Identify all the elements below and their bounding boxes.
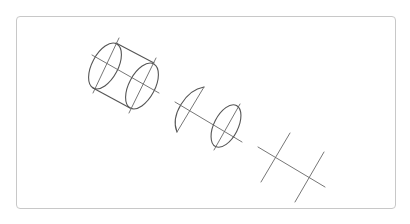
section-axis-line xyxy=(175,102,242,142)
ellipse-shape xyxy=(205,100,247,152)
cylinder-shape xyxy=(82,38,165,114)
half-ellipse-shape xyxy=(175,87,204,132)
sketch-canvas xyxy=(0,0,410,224)
cross-lines-shape xyxy=(258,133,325,202)
